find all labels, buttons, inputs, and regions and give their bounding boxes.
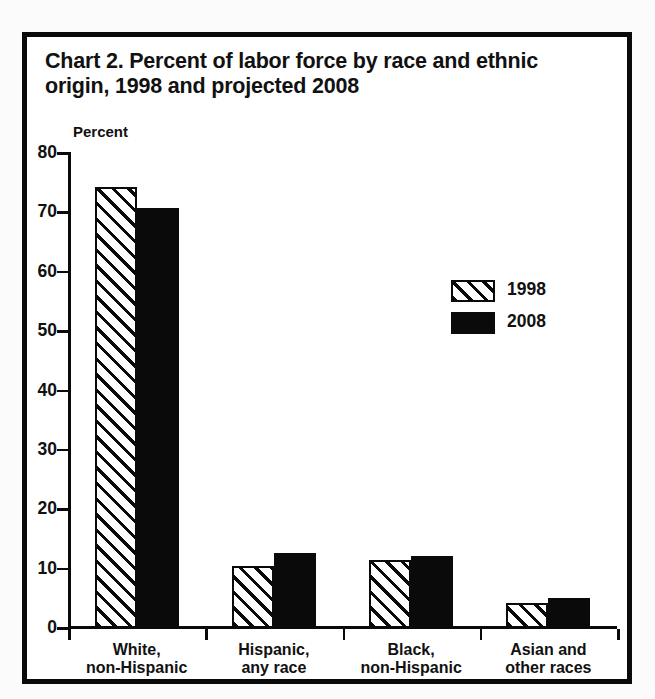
- y-axis-tick-mark: [57, 271, 69, 274]
- y-axis-tick-mark: [57, 330, 69, 333]
- hatched-swatch: [451, 280, 495, 302]
- x-axis-category-label: Asian and other races: [480, 641, 617, 677]
- y-axis-tick-label: 0: [23, 617, 57, 638]
- chart-legend: 19982008: [451, 280, 601, 344]
- y-axis-tick-label: 10: [23, 558, 57, 579]
- x-axis-category-label: Black, non-Hispanic: [343, 641, 480, 677]
- bar-1998-2: [232, 566, 274, 628]
- bar-2008-2: [274, 553, 316, 628]
- legend-label: 1998: [507, 279, 546, 300]
- y-axis-ticks: 01020304050607080: [0, 37, 57, 689]
- legend-item: 2008: [451, 312, 601, 344]
- bar-2008-4: [548, 598, 590, 628]
- x-axis-tick-mark: [68, 629, 71, 640]
- legend-label: 2008: [507, 311, 546, 332]
- x-axis-tick-mark: [480, 629, 483, 640]
- bar-1998-1: [95, 187, 137, 628]
- y-axis-tick-mark: [57, 508, 69, 511]
- solid-swatch: [451, 312, 495, 334]
- y-axis-tick-mark: [57, 390, 69, 393]
- y-axis-tick-mark: [57, 449, 69, 452]
- x-axis-category-label: Hispanic, any race: [205, 641, 342, 677]
- x-axis-category-label: White, non-Hispanic: [68, 641, 205, 677]
- y-axis-tick-label: 70: [23, 201, 57, 222]
- y-axis-tick-label: 80: [23, 142, 57, 163]
- x-axis-tick-mark: [205, 629, 208, 640]
- bar-2008-1: [137, 208, 179, 628]
- y-axis-unit-label: Percent: [73, 123, 128, 140]
- chart-figure-frame: Chart 2. Percent of labor force by race …: [22, 32, 632, 684]
- y-axis-tick-label: 40: [23, 380, 57, 401]
- x-axis-tick-mark: [343, 629, 346, 640]
- bar-1998-4: [506, 603, 548, 628]
- legend-item: 1998: [451, 280, 601, 312]
- y-axis-tick-label: 20: [23, 498, 57, 519]
- plot-area: Percent 01020304050607080 White, non-His…: [27, 37, 637, 689]
- y-axis-tick-mark: [57, 152, 69, 155]
- y-axis-tick-mark: [57, 568, 69, 571]
- bar-1998-3: [369, 560, 411, 628]
- y-axis-tick-mark: [57, 627, 69, 630]
- y-axis-tick-label: 60: [23, 261, 57, 282]
- bar-2008-3: [411, 556, 453, 628]
- y-axis-tick-label: 30: [23, 439, 57, 460]
- y-axis-tick-mark: [57, 211, 69, 214]
- y-axis-tick-label: 50: [23, 320, 57, 341]
- x-axis-tick-mark: [617, 629, 620, 640]
